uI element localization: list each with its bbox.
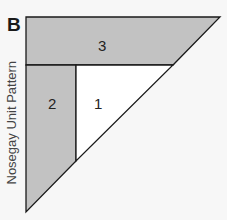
piece-1-label: 1	[94, 95, 102, 112]
piece-2	[26, 65, 76, 212]
piece-3	[26, 17, 220, 65]
pattern-diagram: 3 2 1	[0, 0, 227, 220]
piece-3-label: 3	[98, 37, 106, 54]
piece-1	[76, 65, 173, 161]
piece-2-label: 2	[48, 95, 56, 112]
